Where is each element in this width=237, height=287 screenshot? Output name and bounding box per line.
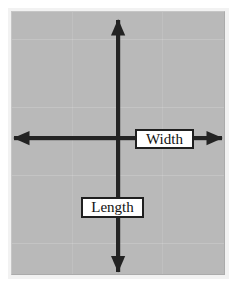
- vertical-axis-shaft: [116, 20, 120, 272]
- width-label-box: Width: [135, 129, 194, 149]
- length-label-box: Length: [81, 197, 144, 218]
- vertical-axis: [111, 19, 125, 273]
- arrow-up-icon: [111, 19, 125, 36]
- length-label-text: Length: [91, 200, 134, 215]
- arrow-left-icon: [13, 131, 29, 145]
- width-label-text: Width: [146, 132, 183, 147]
- axes-drawing: [0, 0, 237, 287]
- arrow-down-icon: [111, 256, 125, 273]
- figure-root: Width Length: [0, 0, 237, 287]
- arrow-right-icon: [207, 131, 223, 145]
